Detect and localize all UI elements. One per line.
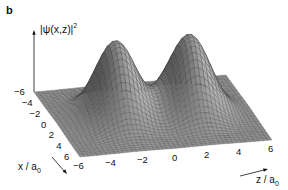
x-tick-label: 4 (56, 141, 61, 151)
x-tick-label: 0 (41, 120, 46, 130)
z-tick-label: 0 (172, 153, 177, 163)
x-tick-label: −4 (22, 98, 33, 108)
x-tick-label: 6 (64, 152, 69, 162)
z2-axis-title: z / a0 (256, 175, 279, 187)
x-axis-title: x / a0 (18, 162, 41, 174)
surface-mesh (34, 34, 272, 157)
z-tick-label: 2 (204, 150, 209, 160)
panel-label: b (6, 4, 13, 16)
x-tick-label: −2 (29, 109, 40, 119)
z-axis-title: |ψ(x,z)|2 (40, 22, 77, 35)
z-tick-label: 4 (236, 147, 241, 157)
x-tick-label: 2 (49, 130, 54, 140)
z-tick-label: 6 (268, 144, 273, 154)
z-tick-label: −2 (137, 155, 148, 165)
x-tick-label: −6 (14, 87, 25, 97)
z-tick-label: −4 (105, 158, 116, 168)
z-tick-label: −6 (73, 161, 84, 171)
